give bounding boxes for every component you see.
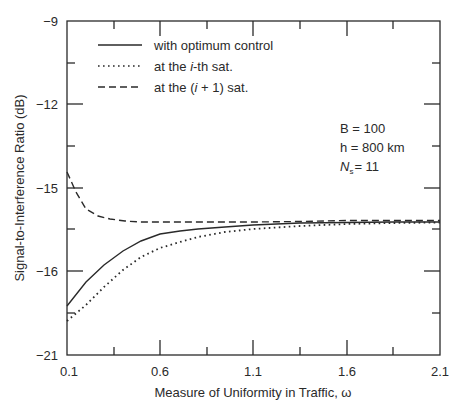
annotation-ns: Ns= 11	[340, 159, 379, 176]
y-axis-ticks-right	[424, 63, 440, 313]
y-tick-label: −9	[43, 14, 58, 29]
legend-label-i-th: at the i-th sat.	[154, 59, 233, 74]
y-axis-title: Signal-to-Interference Ratio (dB)	[12, 94, 27, 281]
y-tick-label: −16	[36, 264, 58, 279]
x-tick-label: 2.1	[431, 364, 449, 379]
annotation-b: B = 100	[340, 121, 385, 136]
y-tick-label: −21	[36, 348, 58, 363]
series-with-optimum-control	[67, 222, 440, 306]
x-axis-ticks-bottom	[114, 340, 393, 355]
annotation-h: h = 800 km	[340, 140, 405, 155]
x-axis-title: Measure of Uniformity in Traffic, ω	[154, 385, 351, 400]
y-tick-label: −12	[36, 97, 58, 112]
legend: with optimum control at the i-th sat. at…	[98, 38, 273, 95]
x-axis-ticks-top	[114, 21, 393, 36]
plot-frame	[67, 21, 440, 355]
x-tick-label: 1.6	[338, 364, 356, 379]
legend-label-optimum: with optimum control	[153, 38, 273, 53]
y-axis-ticks-left	[67, 63, 83, 313]
legend-label-i-plus-1: at the (i + 1) sat.	[154, 80, 248, 95]
parameter-annotation: B = 100 h = 800 km Ns= 11	[340, 121, 405, 176]
x-tick-label: 0.6	[151, 364, 169, 379]
line-chart: −9 −12 −15 −16 −21 0.1 0.6 1.1 1.6 2.1 M…	[0, 0, 462, 405]
series-at-i-th-sat	[67, 223, 440, 322]
x-tick-label: 0.1	[60, 364, 78, 379]
series-at-i-plus-1-sat	[67, 172, 440, 222]
x-tick-labels: 0.1 0.6 1.1 1.6 2.1	[60, 364, 449, 379]
y-tick-label: −15	[36, 181, 58, 196]
y-tick-labels: −9 −12 −15 −16 −21	[36, 14, 58, 363]
x-tick-label: 1.1	[244, 364, 262, 379]
